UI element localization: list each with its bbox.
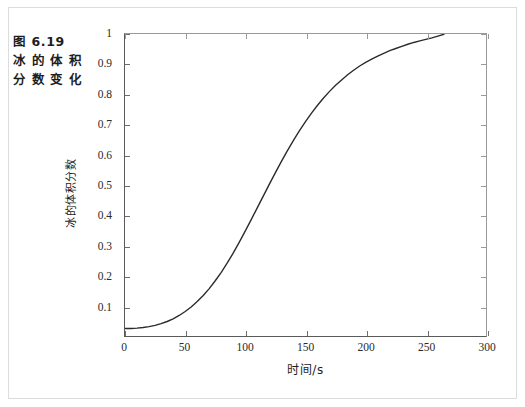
x-axis-title: 时间/s <box>124 360 487 377</box>
y-axis-tick-label: 0.2 <box>0 270 118 282</box>
figure-container: 图 6.19 冰 的 体 积 分 数 变 化 0.10.20.30.40.50.… <box>0 0 525 407</box>
y-axis-tick-label: 0.5 <box>0 179 118 191</box>
x-axis-tick <box>488 331 489 336</box>
x-axis-tick-top <box>246 34 247 39</box>
caption-line-1: 图 6.19 <box>13 32 101 51</box>
y-axis-tick-label: 0.8 <box>0 88 118 100</box>
y-axis-tick-right <box>481 34 486 35</box>
y-axis-tick-right <box>481 216 486 217</box>
x-axis-tick-top <box>186 34 187 39</box>
y-axis-tick-right <box>481 156 486 157</box>
y-axis-tick-label: 0.4 <box>0 209 118 221</box>
caption-line-3: 分 数 变 化 <box>13 70 101 89</box>
y-axis-tick-right <box>481 64 486 65</box>
y-axis-tick <box>125 277 130 278</box>
y-axis-tick <box>125 156 130 157</box>
y-axis-tick-label: 0.3 <box>0 240 118 252</box>
y-axis-tick-label: 0.7 <box>0 118 118 130</box>
x-axis-tick-label: 200 <box>346 341 386 353</box>
y-axis-tick-right <box>481 277 486 278</box>
plot-area <box>124 33 487 337</box>
y-axis-tick <box>125 125 130 126</box>
x-axis-tick <box>307 331 308 336</box>
x-axis-tick-labels: 050100150200250300 <box>124 341 487 361</box>
x-axis-tick-label: 300 <box>467 341 507 353</box>
x-axis-tick-label: 250 <box>407 341 447 353</box>
y-axis-tick-right <box>481 186 486 187</box>
x-axis-tick-top <box>367 34 368 39</box>
y-axis-title: 冰的体积分数 <box>62 123 78 263</box>
y-axis-tick <box>125 247 130 248</box>
y-axis-tick <box>125 95 130 96</box>
x-axis-tick <box>367 331 368 336</box>
x-axis-tick-label: 0 <box>104 341 144 353</box>
y-axis-tick <box>125 186 130 187</box>
x-axis-tick-label: 100 <box>225 341 265 353</box>
caption-line-2: 冰 的 体 积 <box>13 51 101 70</box>
x-axis-tick-top <box>488 34 489 39</box>
y-axis-tick-label: 0.1 <box>0 301 118 313</box>
x-axis-tick <box>428 331 429 336</box>
y-axis-tick-right <box>481 95 486 96</box>
y-axis-tick-label: 0.6 <box>0 149 118 161</box>
y-axis-tick <box>125 64 130 65</box>
y-axis-tick <box>125 308 130 309</box>
x-axis-tick-top <box>125 34 126 39</box>
x-axis-tick <box>246 331 247 336</box>
y-axis-tick-right <box>481 308 486 309</box>
y-axis-tick-right <box>481 247 486 248</box>
x-axis-tick-top <box>307 34 308 39</box>
y-axis-tick <box>125 216 130 217</box>
x-axis-tick-top <box>428 34 429 39</box>
x-axis-tick-label: 50 <box>165 341 205 353</box>
x-axis-tick <box>125 331 126 336</box>
y-axis-tick-right <box>481 125 486 126</box>
line-curve <box>125 34 486 336</box>
figure-caption: 图 6.19 冰 的 体 积 分 数 变 化 <box>13 32 101 89</box>
x-axis-tick <box>186 331 187 336</box>
x-axis-tick-label: 150 <box>286 341 326 353</box>
